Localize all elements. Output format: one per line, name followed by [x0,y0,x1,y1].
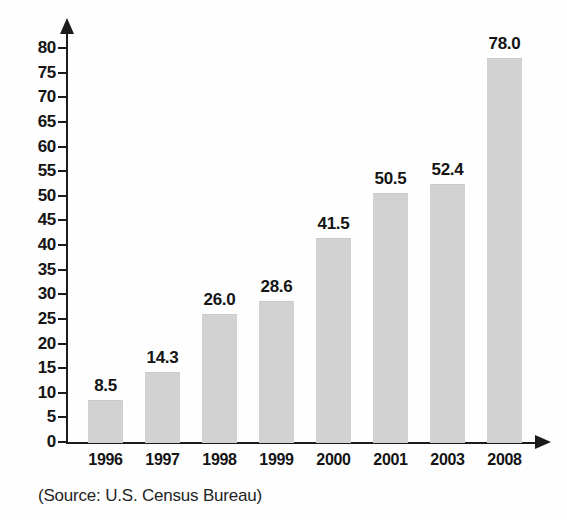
chart-page: 05101520253035404550556065707580 8.514.3… [0,0,567,520]
y-axis-tick-label: 35 [8,261,56,278]
x-axis-tick-label: 1999 [246,452,307,468]
source-note: (Source: U.S. Census Bureau) [38,486,262,506]
bar [88,400,123,443]
y-axis-tick [58,170,66,172]
y-axis-tick-label: 45 [8,211,56,228]
y-axis-line [66,30,68,444]
bar-chart: 05101520253035404550556065707580 8.514.3… [0,0,567,520]
bar-value-label: 8.5 [74,377,137,394]
bar-value-label: 41.5 [302,215,365,232]
y-axis-tick-label: 15 [8,359,56,376]
bar [430,184,465,443]
y-axis-tick [58,195,66,197]
y-axis-tick [58,244,66,246]
y-axis-tick-label: 40 [8,236,56,253]
y-axis-tick-label: 75 [8,64,56,81]
y-axis-tick-label: 25 [8,310,56,327]
y-axis-tick-label-text: 50 [16,187,56,204]
x-axis-tick-label: 2001 [360,452,421,468]
x-axis-tick-label: 2000 [303,452,364,468]
y-axis-tick [58,343,66,345]
x-axis-tick-label: 2008 [474,452,535,468]
y-axis-tick-label: 30 [8,285,56,302]
x-axis-line [66,442,539,444]
bar [145,372,180,443]
y-axis-tick-label: 10 [8,384,56,401]
bar-value-label: 26.0 [188,291,251,308]
y-axis-tick-label-text: 40 [16,236,56,253]
y-axis-tick-label-text: 15 [16,359,56,376]
y-axis-tick [58,219,66,221]
y-axis-tick [58,121,66,123]
y-axis-tick-label-text: 55 [16,162,56,179]
bar-value-label: 50.5 [359,170,422,187]
x-axis-tick-label: 1997 [132,452,193,468]
x-axis-tick-label: 1998 [189,452,250,468]
bar [487,58,522,443]
y-axis-tick [58,392,66,394]
x-axis-tick-label: 1996 [75,452,136,468]
bar [259,301,294,443]
y-axis-tick [58,293,66,295]
y-axis-tick-label-text: 5 [16,408,56,425]
arrow-up-icon [60,18,74,34]
y-axis-tick-label-text: 30 [16,285,56,302]
y-axis-tick [58,47,66,49]
y-axis-tick [58,416,66,418]
arrow-right-icon [535,435,551,449]
y-axis-tick [58,269,66,271]
bar-value-label: 78.0 [473,35,536,52]
bar [202,314,237,443]
y-axis-tick-label: 70 [8,88,56,105]
y-axis-tick-label: 65 [8,113,56,130]
y-axis-tick-label-text: 10 [16,384,56,401]
y-axis-tick-label-text: 45 [16,211,56,228]
bar [316,238,351,443]
y-axis-tick-label-text: 80 [16,39,56,56]
y-axis-tick-label-text: 65 [16,113,56,130]
bar-value-label: 14.3 [131,349,194,366]
y-axis-tick-label: 5 [8,408,56,425]
y-axis-tick-label-text: 75 [16,64,56,81]
y-axis-tick-label-text: 20 [16,335,56,352]
y-axis-tick-label: 80 [8,39,56,56]
y-axis-tick [58,96,66,98]
y-axis-tick-label-text: 35 [16,261,56,278]
y-axis-tick [58,367,66,369]
y-axis-tick-label-text: 25 [16,310,56,327]
y-axis-tick-label-text: 70 [16,88,56,105]
y-axis-tick [58,318,66,320]
bar-value-label: 28.6 [245,278,308,295]
y-axis-tick [58,441,66,443]
y-axis-tick-label: 60 [8,138,56,155]
y-axis-tick-label-text: 0 [16,433,56,450]
bar [373,193,408,443]
bar-value-label: 52.4 [416,161,479,178]
y-axis-tick [58,72,66,74]
y-axis-tick-label: 55 [8,162,56,179]
y-axis-tick-label: 0 [8,433,56,450]
x-axis-tick-label: 2003 [417,452,478,468]
y-axis-tick-label: 50 [8,187,56,204]
y-axis-tick-label-text: 60 [16,138,56,155]
y-axis-tick-label: 20 [8,335,56,352]
y-axis-tick [58,146,66,148]
